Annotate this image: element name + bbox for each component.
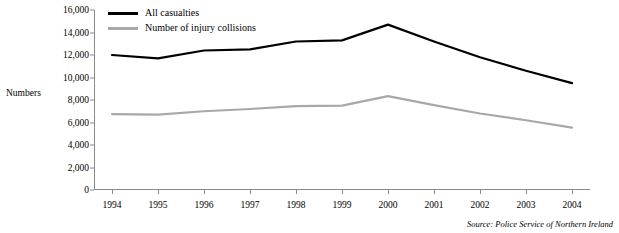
- x-axis-tick-mark: [388, 190, 389, 194]
- source-note: Source: Police Service of Northern Irela…: [467, 219, 613, 229]
- x-axis-tick-mark: [204, 190, 205, 194]
- x-axis-tick-mark: [250, 190, 251, 194]
- x-axis-tick-mark: [526, 190, 527, 194]
- x-axis-tick-label: 1995: [149, 200, 168, 210]
- y-axis-tick-mark: [90, 122, 94, 123]
- x-axis-tick-label: 2000: [379, 200, 398, 210]
- series-line: [112, 96, 572, 128]
- y-axis-tick-mark: [90, 190, 94, 191]
- x-axis-tick-mark: [112, 190, 113, 194]
- y-axis-tick-mark: [90, 145, 94, 146]
- x-axis-tick-label: 2001: [425, 200, 444, 210]
- x-axis-tick-label: 1997: [241, 200, 260, 210]
- y-axis-tick-mark: [90, 32, 94, 33]
- x-axis-tick-mark: [480, 190, 481, 194]
- series-line: [112, 25, 572, 83]
- x-axis-tick-mark: [434, 190, 435, 194]
- x-axis-tick-label: 2004: [563, 200, 582, 210]
- y-axis-tick-mark: [90, 100, 94, 101]
- y-axis-line: [94, 10, 95, 190]
- x-axis-tick-label: 2002: [471, 200, 490, 210]
- y-axis-tick-mark: [90, 167, 94, 168]
- x-axis-tick-label: 2003: [517, 200, 536, 210]
- x-axis-tick-mark: [296, 190, 297, 194]
- x-axis-tick-label: 1994: [103, 200, 122, 210]
- x-axis-tick-label: 1999: [333, 200, 352, 210]
- x-axis-tick-mark: [158, 190, 159, 194]
- plot-area: 02,0004,0006,0008,00010,00012,00014,0001…: [94, 10, 590, 190]
- x-axis-tick-mark: [572, 190, 573, 194]
- x-axis-tick-label: 1998: [287, 200, 306, 210]
- chart-container: Numbers All casualties Number of injury …: [0, 0, 619, 233]
- y-axis-tick-mark: [90, 77, 94, 78]
- series-lines: [94, 10, 590, 190]
- y-axis-title: Numbers: [6, 88, 41, 98]
- y-axis-tick-mark: [90, 10, 94, 11]
- y-axis-tick-mark: [90, 55, 94, 56]
- x-axis-tick-mark: [342, 190, 343, 194]
- x-axis-tick-label: 1996: [195, 200, 214, 210]
